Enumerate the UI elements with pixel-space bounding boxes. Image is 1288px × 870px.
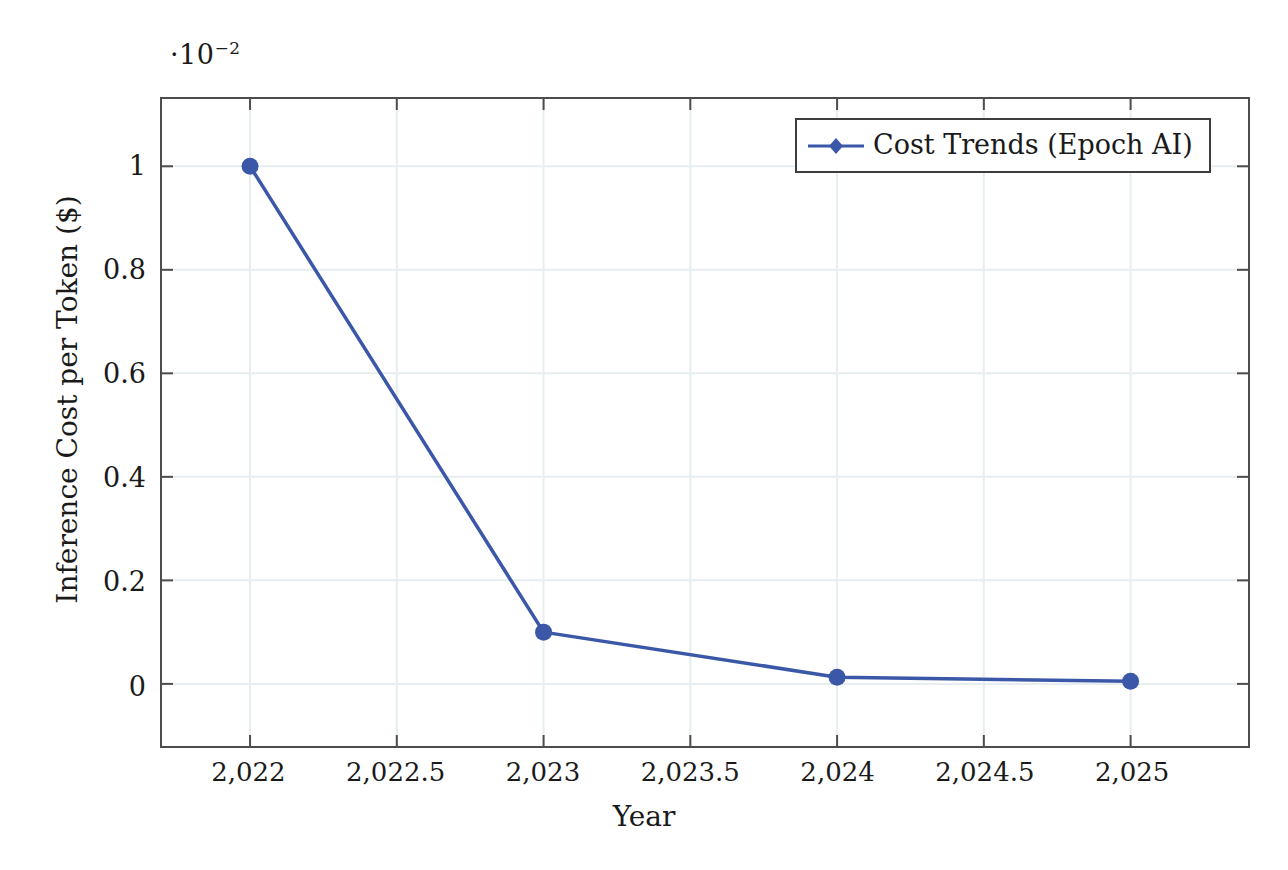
legend-series-marker-icon xyxy=(807,134,865,158)
legend: Cost Trends (Epoch AI) xyxy=(795,118,1211,173)
legend-series-label: Cost Trends (Epoch AI) xyxy=(873,131,1193,161)
x-axis-tick-label: 2,022 xyxy=(211,757,285,787)
x-axis-tick-label: 2,024 xyxy=(800,757,874,787)
x-axis-label: Year xyxy=(0,800,1288,833)
y-axis-multiplier: ·10−2 xyxy=(170,38,241,70)
x-axis-tick-label: 2,023.5 xyxy=(641,757,740,787)
x-axis-tick-label: 2,022.5 xyxy=(346,757,445,787)
x-axis-tick-label: 2,025 xyxy=(1095,757,1169,787)
y-axis-label: Inference Cost per Token ($) xyxy=(51,100,84,700)
data-series-layer xyxy=(162,99,1248,746)
x-axis-tick-label: 2,023 xyxy=(506,757,580,787)
chart-figure: ·10−2 00.20.40.60.81 2,0222,022.52,0232,… xyxy=(0,0,1288,870)
x-axis-tick-label: 2,024.5 xyxy=(935,757,1034,787)
y-axis-multiplier-base: ·10 xyxy=(170,39,214,70)
plot-area xyxy=(160,97,1250,748)
y-axis-multiplier-exponent: −2 xyxy=(214,38,240,58)
